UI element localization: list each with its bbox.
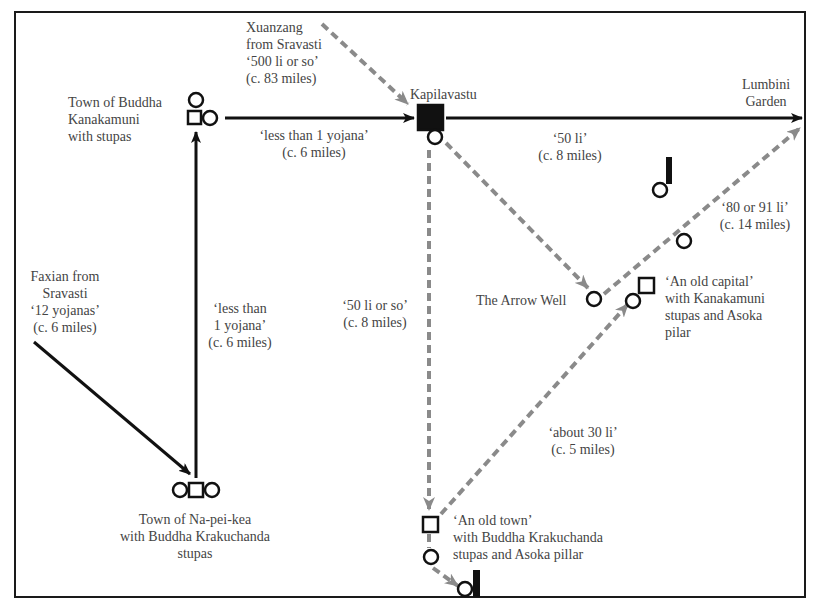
stupa-icon: [428, 130, 442, 144]
label-faxian-route: Faxian from Sravasti ‘12 yojanas’ (c. 6 …: [20, 268, 110, 336]
label-kapilavastu-to-oldtown: ‘50 li or so’ (c. 8 miles): [330, 297, 420, 331]
label-xuanzang-route: Xuanzang from Sravasti ‘500 li or so’ (c…: [246, 19, 322, 87]
town-icon: [639, 278, 654, 293]
town-icon: [423, 517, 438, 532]
label-kanakamuni-town: Town of Buddha Kanakamuni with stupas: [68, 94, 162, 145]
pillar-icon: [473, 570, 480, 597]
route-oldtown-to-pillar: [433, 568, 458, 586]
label-old-capital: ‘An old capital’ with Kanakamuni stupas …: [665, 273, 765, 341]
stupa-icon: [458, 582, 472, 596]
stupa-icon: [189, 93, 203, 107]
label-arrow-well: The Arrow Well: [476, 292, 566, 309]
label-arrowwell-to-lumbini: ‘80 or 91 li’ (c. 14 miles): [710, 199, 800, 233]
label-napeikea-town: Town of Na-pei-kea with Buddha Krakuchan…: [100, 511, 290, 562]
route-oldtown-to-oldcapital: [441, 304, 628, 514]
stupa-icon: [203, 111, 217, 125]
label-kanakamuni-to-kapilavastu: ‘less than 1 yojana’ (c. 6 miles): [228, 127, 400, 161]
label-lumbini-garden: Lumbini Garden: [730, 76, 802, 110]
town-icon: [188, 111, 201, 124]
stupa-icon: [653, 183, 667, 197]
well-icon: [587, 292, 601, 306]
stupa-icon: [205, 483, 219, 497]
pillar-icon: [666, 157, 672, 184]
label-oldtown-to-oldcapital: ‘about 30 li’ (c. 5 miles): [538, 424, 628, 458]
label-napeikea-to-kanakamuni: ‘less than 1 yojana’ (c. 6 miles): [200, 300, 280, 351]
route-kapilavastu-to-arrowwell: [446, 143, 588, 288]
city-icon: [418, 105, 443, 130]
stupa-icon: [626, 294, 640, 308]
stupa-icon: [424, 550, 438, 564]
label-old-town: ‘An old town’ with Buddha Krakuchanda st…: [453, 512, 603, 563]
town-icon: [189, 483, 203, 497]
stupa-icon: [173, 483, 187, 497]
route-xuanzang-from-sravasti: [322, 24, 408, 104]
label-kapilavastu: Kapilavastu: [410, 86, 477, 103]
route-faxian-from-sravasti: [34, 342, 190, 474]
label-kapilavastu-to-lumbini: ‘50 li’ (c. 8 miles): [530, 130, 610, 164]
stupa-icon: [677, 234, 691, 248]
